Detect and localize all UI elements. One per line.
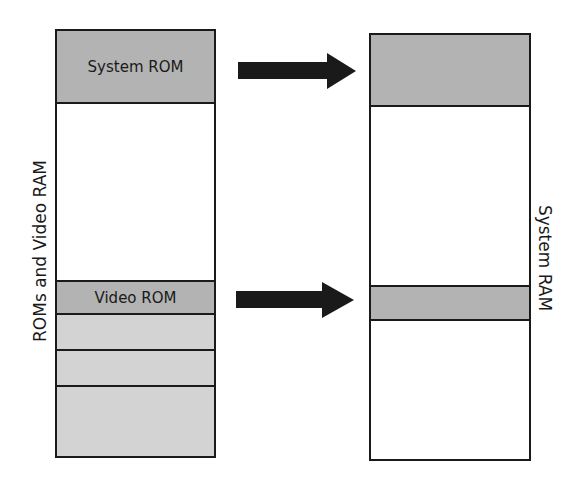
- shadowed-video-rom-segment: [371, 285, 529, 321]
- ram-empty-segment-upper: [371, 107, 529, 285]
- rom-segment-2: [57, 351, 214, 387]
- rom-segment-1: [57, 315, 214, 351]
- shadowed-system-rom-segment: [371, 35, 529, 107]
- arrow-right-icon: [236, 52, 360, 90]
- system-rom-label: System ROM: [88, 58, 184, 76]
- system-rom-segment: System ROM: [57, 31, 214, 104]
- rom-segment-3: [57, 387, 214, 456]
- ram-empty-segment-lower: [371, 321, 529, 459]
- left-empty-segment: [57, 104, 214, 280]
- left-column-label: ROMs and Video RAM: [30, 160, 50, 342]
- video-rom-segment: Video ROM: [57, 280, 214, 315]
- arrow-right-icon: [234, 281, 358, 319]
- right-column-label: System RAM: [535, 205, 555, 311]
- roms-video-ram-column: System ROM Video ROM: [55, 29, 216, 458]
- video-rom-label: Video ROM: [95, 289, 177, 307]
- system-ram-column: [369, 33, 531, 461]
